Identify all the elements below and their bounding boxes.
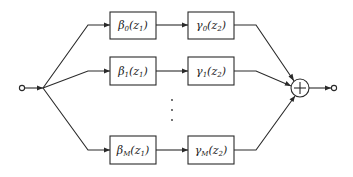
beta-label-1: β1(z1)	[117, 65, 148, 79]
arrow-icon	[290, 96, 296, 102]
input-arrow-icon	[37, 86, 43, 91]
branch-1: β1(z1) γ1(z2)	[110, 57, 291, 86]
gamma-label-1: γ1(z2)	[196, 65, 226, 79]
fanout-branch-M	[43, 88, 110, 150]
summing-junction	[291, 79, 309, 97]
branch-M: βM(z1) γM(z2)	[110, 96, 295, 164]
output-arrow-icon	[325, 86, 331, 91]
beta-label-0: β0(z1)	[117, 19, 148, 33]
beta-label-M: βM(z1)	[116, 144, 149, 158]
arrow-icon	[182, 148, 188, 153]
arrow-icon	[104, 148, 110, 153]
fanout-branch-0	[43, 25, 110, 88]
arrow-icon	[182, 69, 188, 74]
ellipsis	[171, 99, 173, 121]
arrow-icon	[104, 69, 110, 74]
block-diagram: β0(z1) γ0(z2) β1(z1) γ1(z2) βM(z1) γM(z2…	[0, 0, 353, 177]
gamma-label-M: γM(z2)	[195, 144, 228, 158]
arrow-icon	[104, 23, 110, 28]
input-node	[19, 85, 24, 90]
gamma-label-0: γ0(z2)	[196, 19, 226, 33]
arrow-icon	[285, 81, 292, 86]
arrow-icon	[182, 23, 188, 28]
output-node	[331, 85, 336, 90]
